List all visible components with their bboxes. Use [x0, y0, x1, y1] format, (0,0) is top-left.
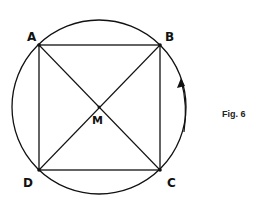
label-c: C	[167, 177, 176, 189]
rotation-arrow-arc	[181, 80, 185, 132]
label-d: D	[23, 177, 33, 189]
vertex-a-dot	[37, 43, 41, 47]
vertex-c-dot	[158, 168, 162, 172]
label-b: B	[165, 31, 174, 43]
figure-caption: Fig. 6	[222, 109, 246, 119]
center-m-dot	[98, 106, 101, 109]
geometry-figure	[0, 0, 262, 209]
label-m: M	[92, 115, 103, 126]
vertex-d-dot	[37, 168, 41, 172]
label-a: A	[27, 31, 36, 43]
vertex-b-dot	[158, 43, 162, 47]
